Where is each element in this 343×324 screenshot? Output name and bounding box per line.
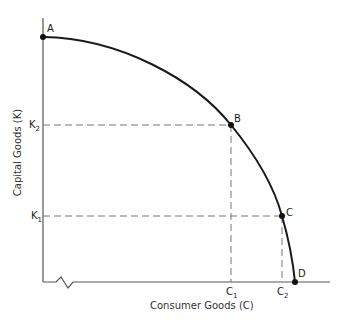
point-d-label: D	[298, 269, 306, 279]
x-axis-title: Consumer Goods (C)	[150, 300, 254, 311]
k2-base: K	[29, 119, 36, 130]
c2-label: C2	[277, 287, 288, 297]
k1-base: K	[31, 210, 38, 221]
k1-sub: 1	[38, 216, 42, 224]
c2-base: C	[277, 286, 284, 297]
ppf-curve	[43, 37, 295, 282]
ppf-diagram	[0, 0, 343, 324]
point-c-label: C	[286, 208, 293, 218]
k2-label: K2	[29, 120, 40, 130]
point-d	[292, 279, 298, 285]
point-c	[279, 213, 285, 219]
k2-sub: 2	[36, 125, 40, 133]
c1-label: C1	[226, 287, 237, 297]
c1-sub: 1	[233, 292, 237, 300]
point-a-label: A	[47, 24, 54, 34]
c2-sub: 2	[284, 292, 288, 300]
dashed-guides	[43, 125, 282, 282]
point-a	[40, 34, 46, 40]
point-b-label: B	[234, 114, 241, 124]
c1-base: C	[226, 286, 233, 297]
y-axis-title: Capital Goods (K)	[12, 98, 23, 208]
k1-label: K1	[31, 211, 42, 221]
